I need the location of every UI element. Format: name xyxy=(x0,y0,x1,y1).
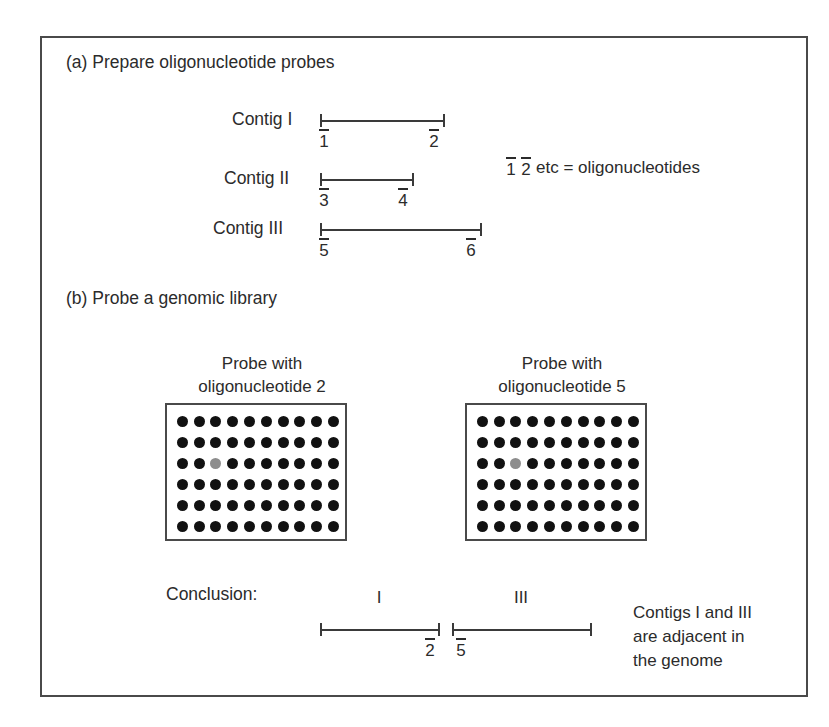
colony-dot xyxy=(261,437,272,448)
dot-cell xyxy=(491,474,508,495)
dot-cell xyxy=(241,453,258,474)
conclusion-tick-left-end xyxy=(438,623,440,636)
dot-cell xyxy=(524,432,541,453)
conclusion-line-right xyxy=(452,629,591,631)
colony-dot xyxy=(594,521,605,532)
oligo-overbar xyxy=(429,129,439,131)
colony-dot xyxy=(244,458,255,469)
colony-dot xyxy=(494,521,505,532)
dot-cell xyxy=(558,495,575,516)
dot-cell xyxy=(608,453,625,474)
colony-dot xyxy=(294,479,305,490)
colony-dot xyxy=(544,479,555,490)
dot-cell xyxy=(224,411,241,432)
colony-dot xyxy=(227,500,238,511)
colony-dot xyxy=(177,479,188,490)
colony-dot xyxy=(177,458,188,469)
colony-dot xyxy=(194,416,205,427)
dot-cell xyxy=(258,411,275,432)
contig-label-3: Contig III xyxy=(213,217,283,241)
colony-dot xyxy=(477,437,488,448)
dot-cell xyxy=(508,495,525,516)
colony-dot xyxy=(278,458,289,469)
colony-dot xyxy=(261,500,272,511)
dot-cell xyxy=(625,411,642,432)
dot-cell xyxy=(575,516,592,537)
dot-cell xyxy=(508,432,525,453)
colony-dot xyxy=(561,479,572,490)
section-b-title: (b) Probe a genomic library xyxy=(66,287,277,311)
colony-dot xyxy=(494,479,505,490)
dot-cell xyxy=(491,411,508,432)
colony-dot xyxy=(611,479,622,490)
colony-dot xyxy=(227,437,238,448)
colony-dot xyxy=(328,416,339,427)
colony-dot xyxy=(527,416,538,427)
dot-cell xyxy=(241,474,258,495)
dot-cell xyxy=(174,516,191,537)
oligo-marker-1: 1 xyxy=(319,129,329,150)
colony-dot xyxy=(578,437,589,448)
colony-dot xyxy=(611,437,622,448)
colony-dot xyxy=(494,500,505,511)
colony-dot xyxy=(628,437,639,448)
dot-cell xyxy=(474,516,491,537)
colony-dot xyxy=(527,437,538,448)
colony-dot xyxy=(611,500,622,511)
dot-cell xyxy=(292,516,309,537)
conclusion-note-line2: are adjacent in xyxy=(633,625,752,649)
dot-cell xyxy=(208,453,225,474)
dot-cell xyxy=(625,474,642,495)
probe-caption-2-line1: Probe with xyxy=(476,353,648,376)
colony-dot xyxy=(611,416,622,427)
dot-cell xyxy=(275,453,292,474)
colony-dot xyxy=(328,437,339,448)
dot-cell xyxy=(208,516,225,537)
contig-tick-1-right xyxy=(443,114,445,127)
dot-cell xyxy=(508,411,525,432)
dot-cell xyxy=(541,516,558,537)
conclusion-line-left xyxy=(320,629,439,631)
contig-line-2 xyxy=(320,179,413,181)
colony-dot xyxy=(578,416,589,427)
dot-cell xyxy=(292,432,309,453)
conclusion-oligo-2: 2 xyxy=(425,638,435,659)
dot-cell xyxy=(524,411,541,432)
colony-dot xyxy=(561,437,572,448)
dot-cell xyxy=(608,432,625,453)
colony-dot xyxy=(244,437,255,448)
colony-dot xyxy=(278,437,289,448)
dot-cell xyxy=(508,516,525,537)
dot-cell xyxy=(491,495,508,516)
colony-dot xyxy=(328,521,339,532)
colony-dot xyxy=(311,437,322,448)
oligo-overbar xyxy=(506,157,516,159)
dot-cell xyxy=(524,453,541,474)
colony-dot xyxy=(227,479,238,490)
colony-dot xyxy=(328,500,339,511)
oligo-marker-5: 5 xyxy=(319,238,329,259)
dot-cell xyxy=(174,432,191,453)
dot-cell xyxy=(592,453,609,474)
colony-dot xyxy=(210,437,221,448)
dot-cell xyxy=(208,411,225,432)
colony-dot xyxy=(544,416,555,427)
oligo-overbar xyxy=(319,188,329,190)
colony-dot xyxy=(561,458,572,469)
colony-dot xyxy=(194,437,205,448)
dot-cell xyxy=(625,495,642,516)
dot-cell xyxy=(508,453,525,474)
dot-cell xyxy=(208,432,225,453)
dot-cell xyxy=(325,432,342,453)
dot-cell xyxy=(275,432,292,453)
colony-dot-positive xyxy=(510,458,521,469)
dot-cell xyxy=(308,495,325,516)
colony-dot xyxy=(194,458,205,469)
colony-dot xyxy=(311,479,322,490)
conclusion-roman-right: III xyxy=(514,588,528,608)
colony-dot xyxy=(210,416,221,427)
colony-dot xyxy=(561,521,572,532)
colony-dot xyxy=(494,416,505,427)
dot-cell xyxy=(575,432,592,453)
colony-dot xyxy=(194,521,205,532)
